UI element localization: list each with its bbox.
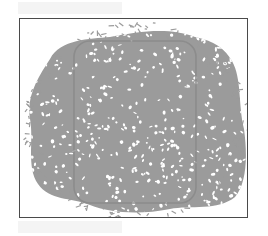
structure-figure-frame	[19, 18, 248, 218]
faint-background-strip-top	[18, 2, 122, 14]
faint-background-strip-bottom	[18, 221, 122, 233]
molecular-structure-image	[20, 19, 248, 218]
